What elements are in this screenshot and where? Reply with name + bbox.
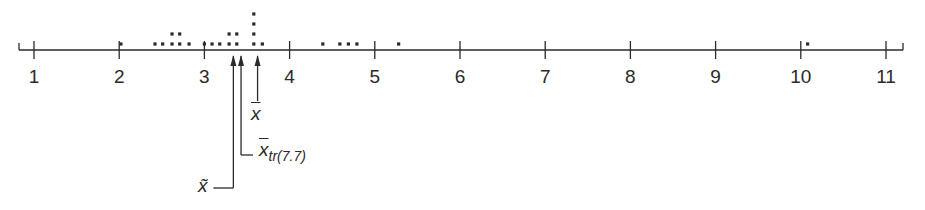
data-dot xyxy=(235,32,238,35)
data-dot xyxy=(235,42,238,45)
data-dot xyxy=(170,42,173,45)
arrow-head xyxy=(238,55,244,66)
data-dot xyxy=(261,42,264,45)
data-dot xyxy=(806,42,809,45)
data-dot xyxy=(170,32,173,35)
arrow-head xyxy=(230,55,236,66)
tick-label: 7 xyxy=(540,67,551,86)
trimmed-mean-subscript: tr(7.7) xyxy=(269,148,306,164)
data-dot xyxy=(153,42,156,45)
mean-symbol: x xyxy=(251,103,261,124)
data-dot xyxy=(252,22,255,25)
mean-label: x xyxy=(251,104,261,123)
x-axis xyxy=(19,41,903,59)
data-dot xyxy=(210,42,213,45)
data-dot xyxy=(321,42,324,45)
median-label: x̃ xyxy=(198,176,208,195)
data-dot xyxy=(252,42,255,45)
tick-label: 3 xyxy=(199,67,210,86)
data-points xyxy=(119,12,809,45)
data-dot xyxy=(252,32,255,35)
data-dot xyxy=(178,32,181,35)
trimmed-mean-symbol: x xyxy=(259,139,269,160)
tick-label: 6 xyxy=(455,67,466,86)
arrow-head xyxy=(255,55,261,66)
data-dot xyxy=(397,42,400,45)
median-symbol: x̃ xyxy=(198,175,208,196)
tick-label: 9 xyxy=(710,67,721,86)
tick-label: 10 xyxy=(790,67,811,86)
data-dot xyxy=(228,42,231,45)
tick-label: 4 xyxy=(284,67,295,86)
tick-label: 5 xyxy=(370,67,381,86)
tick-label: 8 xyxy=(625,67,636,86)
data-dot xyxy=(161,42,164,45)
dot-plot xyxy=(0,0,925,210)
data-dot xyxy=(218,42,221,45)
data-dot xyxy=(119,42,122,45)
data-dot xyxy=(347,42,350,45)
tick-label: 1 xyxy=(29,67,40,86)
data-dot xyxy=(355,42,358,45)
data-dot xyxy=(252,12,255,15)
tick-label: 11 xyxy=(876,67,896,86)
data-dot xyxy=(203,42,206,45)
data-dot xyxy=(187,42,190,45)
data-dot xyxy=(228,32,231,35)
data-dot xyxy=(178,42,181,45)
data-dot xyxy=(338,42,341,45)
trimmed-mean-label: xtr(7.7) xyxy=(259,140,306,163)
tick-label: 2 xyxy=(114,67,125,86)
